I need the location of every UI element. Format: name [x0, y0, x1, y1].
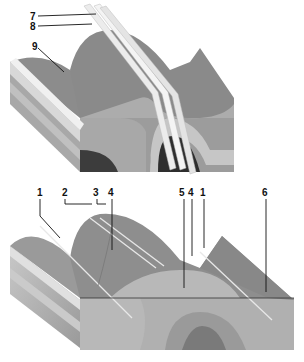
label-3: 3 — [93, 187, 99, 198]
top-block — [10, 4, 234, 174]
label-9: 9 — [32, 41, 38, 52]
label-1-right: 1 — [200, 187, 206, 198]
bottom-block — [10, 214, 294, 350]
label-5: 5 — [179, 187, 185, 198]
label-6: 6 — [262, 187, 268, 198]
label-4-right: 4 — [188, 187, 194, 198]
label-4-left: 4 — [108, 187, 114, 198]
label-1-left: 1 — [37, 187, 43, 198]
label-2: 2 — [62, 187, 68, 198]
block-diagram: 7 8 9 1 2 3 — [0, 0, 304, 362]
label-8: 8 — [30, 21, 36, 32]
